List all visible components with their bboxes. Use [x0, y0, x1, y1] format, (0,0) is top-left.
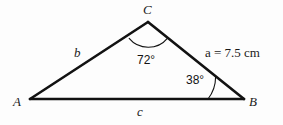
side-b-segment [30, 22, 148, 99]
triangle-diagram: A B C b c a = 7.5 cm 72° 38° [0, 0, 283, 125]
side-a-segment [148, 22, 244, 99]
vertex-label-c: C [143, 3, 152, 16]
vertex-label-a: A [13, 95, 21, 108]
side-label-c: c [137, 105, 143, 118]
angle-label-b: 38° [186, 74, 204, 86]
angle-arc-c [129, 38, 168, 47]
angle-label-c: 72° [137, 54, 155, 66]
side-label-b: b [74, 46, 81, 59]
angle-arc-b [208, 77, 216, 99]
vertex-label-b: B [249, 95, 257, 108]
side-a-measure: a = 7.5 cm [205, 46, 260, 59]
